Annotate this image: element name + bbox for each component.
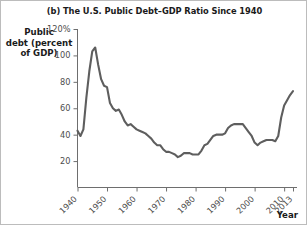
x-tick-label: 1990: [205, 194, 227, 216]
y-tick-label: 100: [55, 50, 71, 60]
x-tick-label: 1970: [146, 194, 168, 216]
y-tick-label: 20: [60, 156, 70, 166]
x-tick-label: 1960: [116, 194, 138, 216]
chart-figure: (b) The U.S. Public Debt–GDP Ratio Since…: [0, 0, 307, 225]
data-series-line: [78, 47, 294, 157]
x-tick-label: 2000: [234, 194, 256, 216]
x-tick-labels: 194019501960197019801990200020102013: [57, 194, 294, 216]
x-axis-title: Year: [277, 210, 298, 220]
y-tick-marks: [74, 30, 78, 162]
plot-area: 120%10080604020 194019501960197019801990…: [1, 1, 307, 225]
y-tick-label: 80: [60, 77, 70, 87]
x-tick-marks: [78, 188, 294, 192]
y-tick-labels: 120%10080604020: [47, 24, 71, 166]
y-tick-label: 40: [60, 130, 70, 140]
x-tick-label: 1940: [57, 194, 79, 216]
x-tick-label: 1950: [87, 194, 109, 216]
y-tick-label: 120%: [47, 24, 71, 34]
x-tick-label: 1980: [175, 194, 197, 216]
y-tick-label: 60: [60, 103, 70, 113]
